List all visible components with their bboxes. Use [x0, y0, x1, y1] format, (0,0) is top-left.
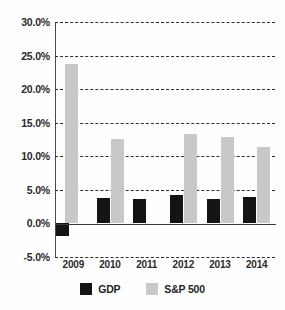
x-axis-tick-label: 2011: [128, 259, 165, 270]
y-axis-tick-label: 15.0%: [0, 117, 50, 129]
chart-legend: GDPS&P 500: [0, 283, 285, 295]
gridline: [55, 123, 275, 124]
bar-gdp-2014: [243, 197, 256, 223]
y-axis-tick-labels: 30.0%25.0%20.0%15.0%10.0%5.0%0.0%-5.0%: [0, 0, 52, 310]
legend-label: S&P 500: [164, 283, 204, 295]
x-axis-tick-label: 2010: [92, 259, 129, 270]
x-axis-tick-labels: 200920102011201220132014: [55, 259, 275, 277]
y-axis-tick-label: 0.0%: [0, 217, 50, 229]
bar-gdp-2012: [170, 195, 183, 223]
x-axis-tick-label: 2012: [165, 259, 202, 270]
bar-snp-2012: [184, 134, 197, 223]
bar-gdp-2009: [56, 223, 69, 235]
bar-chart: 30.0%25.0%20.0%15.0%10.0%5.0%0.0%-5.0% 2…: [0, 0, 285, 310]
legend-swatch-icon: [80, 283, 92, 295]
bar-gdp-2013: [207, 199, 220, 224]
y-axis-tick-label: 20.0%: [0, 83, 50, 95]
gridline: [55, 190, 275, 191]
y-axis-tick-label: 25.0%: [0, 50, 50, 62]
gridline: [55, 89, 275, 90]
gridline: [55, 56, 275, 57]
x-axis-tick-label: 2014: [238, 259, 275, 270]
gridline: [55, 257, 275, 258]
gridline: [55, 22, 275, 23]
bar-snp-2009: [65, 64, 78, 223]
gridline: [55, 156, 275, 157]
bar-snp-2013: [221, 137, 234, 224]
zero-baseline: [55, 224, 276, 225]
y-axis-tick-label: 10.0%: [0, 150, 50, 162]
bar-gdp-2011: [133, 199, 146, 224]
legend-item: S&P 500: [146, 283, 204, 295]
legend-item: GDP: [80, 283, 120, 295]
y-axis-tick-label: -5.0%: [0, 251, 50, 263]
x-axis-tick-label: 2013: [202, 259, 239, 270]
bar-gdp-2010: [97, 198, 110, 224]
legend-swatch-icon: [146, 283, 158, 295]
y-axis-tick-label: 5.0%: [0, 184, 50, 196]
plot-area: [55, 22, 275, 257]
y-axis-tick-label: 30.0%: [0, 16, 50, 28]
legend-label: GDP: [98, 283, 120, 295]
bar-snp-2014: [257, 147, 270, 224]
x-axis-tick-label: 2009: [55, 259, 92, 270]
bar-snp-2010: [111, 139, 124, 224]
